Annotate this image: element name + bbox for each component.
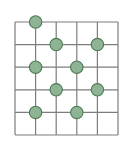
lattice-diagram-figure [0, 0, 138, 151]
lattice-dot-4 [29, 61, 41, 73]
lattice-dot-1 [29, 16, 41, 28]
lattice-dot-3 [91, 38, 103, 50]
lattice-dot-2 [50, 38, 62, 50]
lattice-grid-svg [0, 0, 138, 151]
lattice-dot-7 [91, 84, 103, 96]
lattice-dot-8 [29, 106, 41, 118]
lattice-dot-6 [50, 84, 62, 96]
lattice-dot-5 [71, 61, 83, 73]
figure-background [0, 0, 138, 151]
lattice-dot-9 [71, 106, 83, 118]
